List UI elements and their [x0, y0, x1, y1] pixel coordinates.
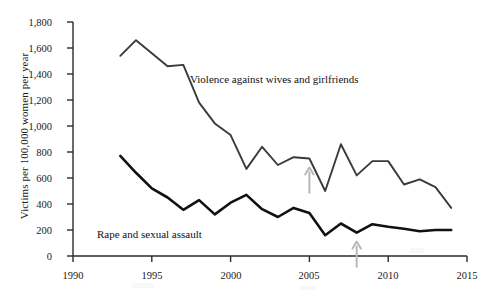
y-tick-marks — [67, 22, 73, 256]
line-rape-and-sexual-assault — [120, 156, 451, 235]
scan-artifact — [300, 286, 316, 290]
line-violence-against-wives-and-girlfriends — [120, 40, 451, 208]
scan-artifact — [132, 283, 154, 288]
axes — [67, 22, 467, 262]
x-tick-marks — [73, 256, 467, 262]
plot-area — [0, 0, 484, 301]
scan-artifact — [410, 248, 424, 253]
chart-figure: Victims per 100,000 women per year 1,800… — [0, 0, 484, 301]
